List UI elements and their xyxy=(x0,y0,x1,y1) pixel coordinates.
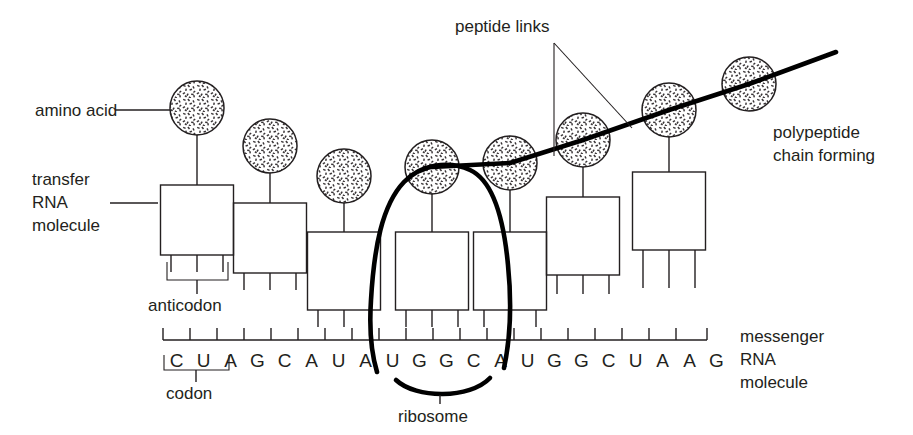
mrna-base: U xyxy=(386,350,400,371)
mrna-base: A xyxy=(656,350,669,371)
trna-molecule xyxy=(161,81,234,272)
trna-molecule xyxy=(234,119,307,290)
trna-molecule xyxy=(633,83,706,288)
amino-acid-circle xyxy=(243,119,297,173)
label-messenger-rna-line3: molecule xyxy=(740,373,808,392)
label-amino-acid: amino acid xyxy=(35,101,117,120)
label-transfer-rna-line3: molecule xyxy=(32,216,100,235)
label-transfer-rna-line2: RNA xyxy=(32,193,69,212)
trna-body xyxy=(396,232,469,310)
label-messenger-rna-line1: messenger xyxy=(740,327,824,346)
label-polypeptide-line1: polypeptide xyxy=(773,123,860,142)
label-codon: codon xyxy=(166,384,212,403)
trna-body xyxy=(547,197,620,275)
trna-body xyxy=(633,172,706,250)
trna-body xyxy=(161,185,234,255)
mrna-base: G xyxy=(250,350,265,371)
protein-synthesis-diagram: CUAGCAUAUGGCAUGGCUAAG amino acid transfe… xyxy=(0,0,913,435)
mrna-base: C xyxy=(602,350,616,371)
diagram-canvas: CUAGCAUAUGGCAUGGCUAAG amino acid transfe… xyxy=(0,0,913,435)
amino-acid-circle xyxy=(317,149,371,203)
label-messenger-rna-line2: RNA xyxy=(740,350,777,369)
mrna-tick-marks xyxy=(163,328,707,340)
label-ribosome: ribosome xyxy=(398,407,468,426)
label-anticodon: anticodon xyxy=(148,296,222,315)
trna-body xyxy=(234,203,307,273)
mrna-base: U xyxy=(197,350,211,371)
mrna-base: A xyxy=(359,350,372,371)
mrna-base: C xyxy=(278,350,292,371)
mrna-base: G xyxy=(547,350,562,371)
messenger-rna-strand: CUAGCAUAUGGCAUGGCUAAG xyxy=(163,328,724,371)
mrna-base: G xyxy=(709,350,724,371)
mrna-base: U xyxy=(629,350,643,371)
mrna-base: A xyxy=(224,350,237,371)
mrna-base: U xyxy=(332,350,346,371)
label-polypeptide-line2: chain forming xyxy=(773,146,875,165)
mrna-base: G xyxy=(574,350,589,371)
mrna-base: A xyxy=(305,350,318,371)
trna-molecules xyxy=(161,57,777,327)
mrna-base: C xyxy=(170,350,184,371)
amino-acid-circle xyxy=(170,81,224,135)
mrna-base: G xyxy=(412,350,427,371)
mrna-base: A xyxy=(683,350,696,371)
mrna-base: G xyxy=(439,350,454,371)
label-peptide-links: peptide links xyxy=(455,17,550,36)
mrna-base: C xyxy=(467,350,481,371)
label-transfer-rna-line1: transfer xyxy=(32,170,90,189)
mrna-base: U xyxy=(521,350,535,371)
mrna-base-letters: CUAGCAUAUGGCAUGGCUAAG xyxy=(170,350,724,371)
